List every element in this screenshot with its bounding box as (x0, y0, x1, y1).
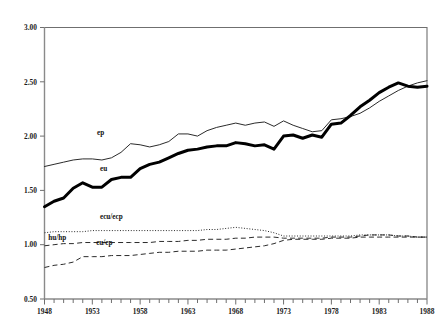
y-axis-tick-label: 3.00 (24, 23, 37, 32)
chart-container: 0.501.001.502.002.503.00 194819531958196… (0, 0, 441, 324)
line-chart: 0.501.001.502.002.503.00 194819531958196… (0, 0, 441, 324)
x-axis-tick-labels: 194819531958196319681973197819831988 (37, 307, 435, 316)
plot-frame (45, 28, 428, 300)
series-label-eu: eu (100, 165, 107, 173)
x-axis-tick-label: 1968 (228, 307, 243, 316)
y-axis-tick-labels: 0.501.001.502.002.503.00 (24, 23, 37, 304)
x-axis-tick-label: 1983 (372, 307, 387, 316)
series-label-hu-hp: hu/hp (48, 234, 66, 242)
series-label-ecu-ecp: ecu/ecp (100, 213, 123, 221)
series-label-ep: ep (97, 129, 104, 137)
series-line-eu (45, 83, 428, 207)
y-axis-tick-label: 0.50 (24, 295, 37, 304)
x-axis-tick-label: 1953 (85, 307, 100, 316)
y-axis-tick-label: 1.50 (24, 186, 37, 195)
series-inline-labels: epeuecu/ecphu/hpeu/ep (48, 129, 122, 247)
x-axis-tick-label: 1958 (133, 307, 148, 316)
series-line-ecu-ecp (45, 227, 428, 237)
y-axis-tick-label: 2.00 (24, 132, 37, 141)
x-axis-tick-label: 1988 (420, 307, 435, 316)
series-label-eu-ep: eu/ep (96, 239, 112, 247)
x-axis-ticks (45, 299, 428, 305)
y-axis-tick-label: 2.50 (24, 78, 37, 87)
x-axis-tick-label: 1963 (181, 307, 196, 316)
plot-frame-top-right (45, 28, 428, 300)
x-axis-tick-label: 1948 (37, 307, 52, 316)
x-axis-tick-label: 1978 (324, 307, 339, 316)
series-line-ep (45, 81, 428, 167)
x-axis-tick-label: 1973 (276, 307, 291, 316)
y-axis-tick-label: 1.00 (24, 240, 37, 249)
